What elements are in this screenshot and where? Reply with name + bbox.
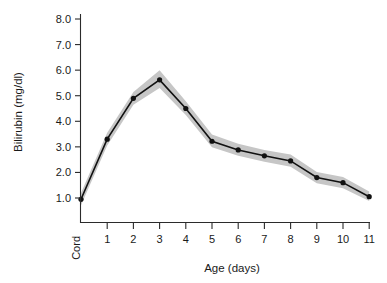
x-tick-label: 10: [337, 233, 349, 245]
x-tick-label: 8: [288, 233, 294, 245]
x-tick-label: 3: [157, 233, 163, 245]
x-tick-label: 4: [183, 233, 189, 245]
y-tick-label: 5.0: [56, 90, 71, 102]
data-point-marker: [209, 139, 214, 144]
x-tick-label: 11: [363, 233, 374, 245]
y-tick-label: 7.0: [56, 39, 71, 51]
x-tick-label: 6: [235, 233, 241, 245]
x-tick-label: 1: [104, 233, 110, 245]
data-point-marker: [183, 106, 188, 111]
data-point-marker: [262, 153, 267, 158]
x-tick-label: 7: [261, 233, 267, 245]
x-tick-label: 9: [314, 233, 320, 245]
x-tick-label: 5: [209, 233, 215, 245]
y-tick-label: 1.0: [56, 192, 71, 204]
data-point-marker: [236, 147, 241, 152]
x-axis-title: Age (days): [204, 262, 260, 274]
y-tick-label: 2.0: [56, 166, 71, 178]
data-point-marker: [340, 180, 345, 185]
y-tick-label: 8.0: [56, 13, 71, 25]
y-tick-label: 4.0: [56, 115, 71, 127]
x-tick-label: Cord: [70, 236, 82, 260]
y-tick-label: 6.0: [56, 64, 71, 76]
y-axis-title: Bilirubin (mg/dl): [12, 72, 24, 152]
data-point-marker: [157, 77, 162, 82]
x-tick-label: 2: [130, 233, 136, 245]
bilirubin-line-chart: 1.02.03.04.05.06.07.08.0 Cord12345678910…: [0, 0, 387, 283]
data-point-marker: [314, 175, 319, 180]
data-point-marker: [288, 158, 293, 163]
chart-figure: 1.02.03.04.05.06.07.08.0 Cord12345678910…: [0, 0, 387, 283]
data-point-marker: [105, 137, 110, 142]
data-point-marker: [131, 96, 136, 101]
y-tick-label: 3.0: [56, 141, 71, 153]
data-point-marker: [367, 194, 372, 199]
